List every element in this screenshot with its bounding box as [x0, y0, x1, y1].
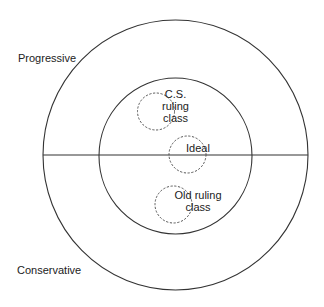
cs-ruling-class-label-line1: C.S.	[165, 88, 186, 100]
political-spectrum-diagram: Progressive Conservative C.S. ruling cla…	[0, 0, 324, 307]
old-ruling-class-label-line1: Old ruling	[174, 189, 221, 201]
conservative-label: Conservative	[17, 264, 81, 276]
cs-ruling-class-label-line3: class	[163, 112, 189, 124]
ideal-label: Ideal	[186, 142, 210, 154]
old-ruling-class-label-line2: class	[185, 201, 211, 213]
cs-ruling-class-label-line2: ruling	[162, 100, 189, 112]
progressive-label: Progressive	[18, 52, 76, 64]
